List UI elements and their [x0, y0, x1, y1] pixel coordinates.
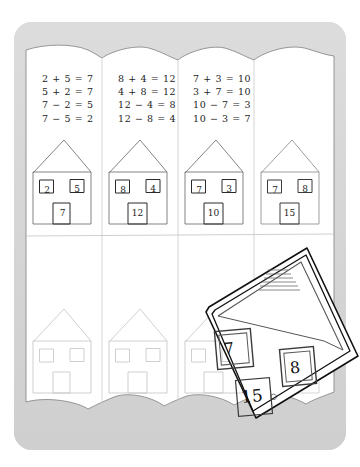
house-1-door-value: 7 — [54, 208, 71, 218]
screenshot-root: 2 + 5 = 7 5 + 2 = 7 7 − 2 = 5 7 − 5 = 2 … — [0, 0, 360, 467]
magnified-house-drawing — [196, 246, 360, 432]
house-2-window-right-value: 4 — [146, 184, 160, 194]
house-3-window-left-value: 7 — [192, 185, 206, 195]
equation-line: 5 + 2 = 7 — [42, 85, 94, 98]
equation-line: 7 + 3 = 10 — [193, 72, 251, 85]
equation-line: 4 + 8 = 12 — [118, 85, 176, 98]
house-4-window-right-value: 8 — [298, 184, 312, 194]
equation-line: 12 − 8 = 4 — [118, 112, 176, 125]
house-3-window-right-value: 3 — [222, 184, 236, 194]
magnified-house-overlay[interactable]: 7 8 15 ○ — [196, 246, 360, 432]
house-3-door-value: 10 — [204, 208, 223, 218]
equation-line: 2 + 5 = 7 — [42, 72, 94, 85]
magnified-door-value: 15 — [240, 385, 264, 407]
equation-line: 12 − 4 = 8 — [118, 98, 176, 111]
magnified-window-right-value: 8 — [289, 358, 301, 378]
house-4-door-value: 15 — [280, 208, 299, 218]
equation-line: 3 + 7 = 10 — [193, 85, 251, 98]
house-2-window-left-value: 8 — [116, 185, 130, 195]
house-1-window-right-value: 5 — [70, 184, 84, 194]
equations-cell-1: 2 + 5 = 7 5 + 2 = 7 7 − 2 = 5 7 − 5 = 2 — [42, 72, 94, 125]
equation-line: 7 − 5 = 2 — [42, 112, 94, 125]
equations-cell-2: 8 + 4 = 12 4 + 8 = 12 12 − 4 = 8 12 − 8 … — [118, 72, 176, 125]
house-4-window-left-value: 7 — [268, 185, 282, 195]
house-2-door-value: 12 — [128, 208, 147, 218]
equation-line: 10 − 7 = 3 — [193, 98, 251, 111]
magnified-window-left-value: 7 — [223, 339, 235, 359]
page-title: Number bond houses worksheet — [0, 0, 1, 1]
equation-line: 8 + 4 = 12 — [118, 72, 176, 85]
equations-cell-3: 7 + 3 = 10 3 + 7 = 10 10 − 7 = 3 10 − 3 … — [193, 72, 251, 125]
cursor-mark-icon: ○ — [270, 392, 278, 402]
house-1-window-left-value: 2 — [40, 185, 54, 195]
equation-line: 7 − 2 = 5 — [42, 98, 94, 111]
equation-line: 10 − 3 = 7 — [193, 112, 251, 125]
